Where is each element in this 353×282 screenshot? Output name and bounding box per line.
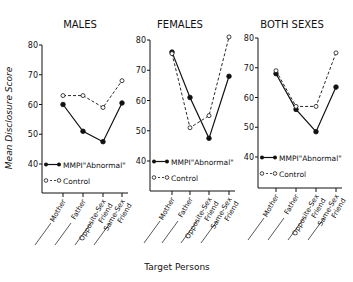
abnormal-point [314, 129, 319, 134]
x-category-label: Father [283, 193, 301, 216]
abnormal-point [207, 136, 212, 141]
abnormal-point [188, 95, 193, 100]
legend-control: Control [63, 177, 90, 186]
panel-females: FEMALES4050607080MotherFatherOpposite-Se… [136, 19, 241, 244]
control-point [334, 51, 338, 55]
panel-title: FEMALES [157, 19, 203, 30]
panel-both-sexes: BOTH SEXES4050607080MotherFatherOpposite… [244, 19, 348, 241]
control-point [294, 104, 298, 108]
x-category-label: Mother [261, 193, 280, 218]
control-line [63, 81, 122, 108]
abnormal-point [227, 74, 232, 79]
abnormal-line [63, 103, 122, 142]
y-tick-label: 40 [244, 153, 254, 162]
y-tick-label: 60 [244, 94, 254, 103]
legend-control: Control [171, 174, 198, 183]
abnormal-line [172, 52, 229, 138]
legend-control: Control [279, 170, 306, 179]
panel-males: MALES4050607080MotherFatherOpposite-SexF… [28, 19, 134, 246]
panel-title: MALES [63, 19, 97, 30]
legend-abnormal: MMPI"Abnormal" [171, 158, 234, 167]
y-tick-label: 70 [136, 66, 146, 75]
y-tick-label: 80 [136, 36, 146, 45]
control-line [172, 37, 229, 128]
y-tick-label: 60 [136, 97, 146, 106]
x-category-label: Mother [48, 198, 67, 223]
control-point [61, 94, 65, 98]
control-point [314, 104, 318, 108]
y-tick-label: 60 [28, 101, 38, 110]
disclosure-chart: Mean Disclosure ScoreMALES4050607080Moth… [0, 0, 353, 282]
abnormal-line [276, 74, 336, 132]
control-point [120, 79, 124, 83]
control-point [188, 126, 192, 130]
control-point [101, 105, 105, 109]
x-category-label: Father [177, 196, 195, 219]
abnormal-point [81, 129, 86, 134]
control-line [276, 53, 336, 107]
y-tick-label: 50 [28, 130, 38, 139]
y-tick-label: 40 [136, 157, 146, 166]
y-tick-label: 70 [28, 71, 38, 80]
y-axis-label: Mean Disclosure Score [4, 66, 14, 169]
control-point [227, 35, 231, 39]
control-point [81, 94, 85, 98]
y-tick-label: 50 [136, 127, 146, 136]
abnormal-point [61, 102, 66, 107]
legend-abnormal: MMPI"Abnormal" [279, 154, 342, 163]
x-category-label: Father [70, 198, 88, 221]
abnormal-point [101, 139, 106, 144]
abnormal-point [120, 101, 125, 106]
y-tick-label: 80 [244, 34, 254, 43]
x-category-label: Mother [157, 196, 176, 221]
y-tick-label: 80 [28, 41, 38, 50]
control-point [207, 114, 211, 118]
legend-abnormal: MMPI"Abnormal" [63, 161, 126, 170]
y-tick-label: 50 [244, 123, 254, 132]
control-point [274, 69, 278, 73]
x-axis-label: Target Persons [143, 262, 210, 272]
y-tick-label: 70 [244, 64, 254, 73]
y-tick-label: 40 [28, 160, 38, 169]
panel-title: BOTH SEXES [260, 19, 324, 30]
abnormal-point [334, 85, 339, 90]
control-point [170, 52, 174, 56]
